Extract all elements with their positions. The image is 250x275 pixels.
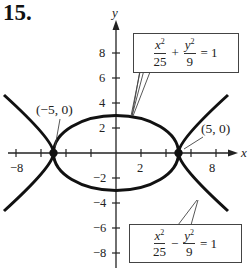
- denominator: 9: [186, 244, 193, 258]
- y-tick-label: −8: [93, 246, 106, 260]
- denominator: 25: [153, 54, 166, 68]
- y-axis-label: y: [110, 5, 118, 20]
- x-axis: [8, 149, 238, 157]
- point-label-left: (−5, 0): [36, 102, 73, 117]
- point-right-vertex: [174, 149, 182, 157]
- y-tick-label: 8: [99, 46, 105, 60]
- y-axis: [112, 20, 120, 268]
- y-tick-label: −2: [93, 171, 106, 185]
- y-tick-label: −4: [93, 196, 107, 210]
- fraction: y2 9: [183, 229, 195, 258]
- x-tick-label: −8: [10, 161, 23, 175]
- operator: +: [171, 45, 178, 61]
- x-axis-label: x: [240, 145, 247, 160]
- operator: −: [171, 236, 178, 252]
- ellipse-equation-box: x2 25 + y2 9 = 1: [133, 33, 239, 73]
- y-axis-arrow-icon: [113, 20, 120, 30]
- fraction: x2 25: [153, 229, 166, 258]
- fraction: x2 25: [153, 38, 166, 67]
- y-tick-label: 4: [99, 96, 106, 110]
- equation-rhs: = 1: [200, 236, 217, 252]
- point-left-vertex: [49, 149, 57, 157]
- denominator: 25: [153, 244, 166, 258]
- x-tick-label: 2: [137, 161, 143, 175]
- y-tick-label: 6: [99, 71, 105, 85]
- equation-rhs: = 1: [201, 45, 218, 61]
- x-tick-label: 8: [209, 161, 215, 175]
- exponent: 2: [190, 228, 194, 237]
- exponent: 2: [160, 228, 164, 237]
- leader-line-left: [55, 119, 60, 147]
- x-axis-arrow-icon: [228, 150, 238, 157]
- point-label-right: (5, 0): [201, 121, 230, 136]
- hyperbola-equation-box: x2 25 − y2 9 = 1: [129, 224, 242, 263]
- fraction: y2 9: [184, 38, 196, 67]
- denominator: 9: [186, 54, 193, 68]
- exponent: 2: [161, 37, 165, 46]
- y-tick-label: 2: [99, 121, 105, 135]
- exponent: 2: [191, 37, 195, 46]
- y-tick-label: −6: [93, 221, 106, 235]
